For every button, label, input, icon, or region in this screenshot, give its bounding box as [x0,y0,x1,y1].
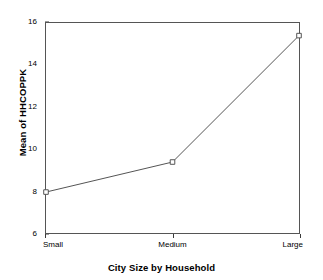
data-line [46,36,299,192]
data-point-marker [170,160,175,165]
y-axis-tick-labels: 1614121086 [0,22,41,234]
y-tick-label: 10 [28,145,37,153]
y-tick-label: 8 [33,188,37,196]
x-tick-label: Medium [158,240,186,249]
chart-canvas: Mean of HHCOPPK 1614121086 SmallMediumLa… [0,0,323,280]
data-series-layer [46,23,299,233]
x-axis-title: City Size by Household [0,262,323,273]
x-tick-mark [45,234,46,238]
x-tick-mark [300,234,301,238]
data-point-marker [297,33,302,38]
y-tick-label: 6 [33,230,37,238]
y-tick-label: 16 [28,18,37,26]
data-point-marker [44,190,49,195]
x-tick-label: Large [283,240,303,249]
plot-area [45,22,300,234]
y-tick-label: 14 [28,60,37,68]
y-tick-label: 12 [28,103,37,111]
x-tick-mark [173,234,174,238]
x-tick-label: Small [43,240,63,249]
